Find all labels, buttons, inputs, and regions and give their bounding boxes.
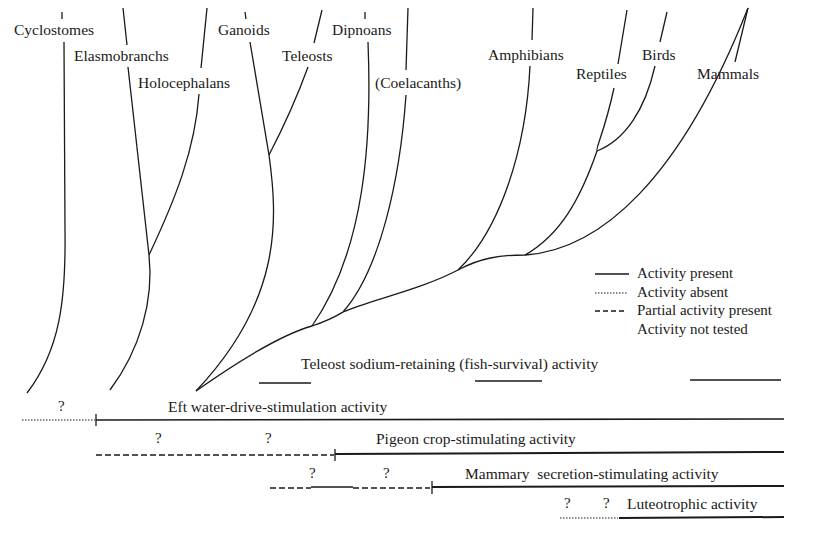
- branch-coelacanths-top: [406, 8, 408, 70]
- question-mark: ?: [155, 431, 162, 446]
- branch-birds-top: [660, 12, 667, 42]
- question-mark: ?: [383, 466, 390, 481]
- question-mark: ?: [58, 399, 65, 414]
- branch-elasmo-trunk: [110, 255, 150, 390]
- taxon-label-mammals: Mammals: [697, 66, 759, 82]
- legend-activity-present: Activity present: [637, 266, 733, 281]
- legend-partial-activity: Partial activity present: [637, 303, 772, 318]
- mammary-present-line: [432, 486, 784, 487]
- activity-label-mammary: Mammary secretion-stimulating activity: [465, 466, 719, 482]
- branch-reptiles-top: [618, 10, 627, 64]
- eft-present-line: [96, 419, 784, 420]
- branch-ganoids: [250, 42, 269, 155]
- branch-elasmobranchs-lower: [128, 67, 149, 255]
- pigeon-present-line: [335, 452, 784, 454]
- taxon-label-cyclostomes: Cyclostomes: [14, 22, 94, 38]
- taxon-label-elasmobranchs: Elasmobranchs: [74, 48, 169, 64]
- legend-not-tested: Activity not tested: [637, 322, 748, 337]
- activity-label-luteotrophic: Luteotrophic activity: [627, 496, 757, 512]
- branch-teleosts-top: [314, 10, 322, 43]
- branch-coelacanths: [343, 95, 406, 312]
- branch-holocephalans: [149, 94, 199, 255]
- question-mark: ?: [564, 496, 571, 511]
- taxon-label-birds: Birds: [642, 47, 676, 63]
- activity-label-teleost-sodium: Teleost sodium-retaining (fish-survival)…: [301, 356, 598, 372]
- branch-amphibians: [458, 66, 530, 270]
- taxon-label-amphibians: Amphibians: [488, 47, 564, 63]
- branch-amphibians-top: [532, 8, 533, 40]
- branch-actinopterygian-trunk: [196, 155, 274, 391]
- taxon-label-ganoids: Ganoids: [218, 22, 270, 38]
- luteo-present-line: [619, 517, 784, 518]
- question-mark: ?: [309, 466, 316, 481]
- taxon-label-coelacanths: (Coelacanths): [375, 75, 461, 91]
- question-mark: ?: [603, 496, 610, 511]
- legend-activity-absent: Activity absent: [637, 285, 728, 300]
- activity-label-pigeon-crop: Pigeon crop-stimulating activity: [376, 431, 576, 447]
- branch-teleosts: [269, 67, 308, 155]
- taxon-label-dipnoans: Dipnoans: [332, 22, 391, 38]
- branch-cyclostomes: [27, 42, 65, 393]
- taxon-label-reptiles: Reptiles: [576, 66, 627, 82]
- taxon-label-holocephalans: Holocephalans: [138, 75, 230, 91]
- activity-label-eft-water-drive: Eft water-drive-stimulation activity: [168, 399, 387, 415]
- branch-dipnoans: [312, 42, 369, 326]
- branch-elasmobranchs: [123, 8, 127, 45]
- taxon-label-teleosts: Teleosts: [282, 48, 333, 64]
- branch-reptiles: [525, 88, 614, 255]
- branch-holocephalans-top: [201, 8, 207, 68]
- question-mark: ?: [265, 431, 272, 446]
